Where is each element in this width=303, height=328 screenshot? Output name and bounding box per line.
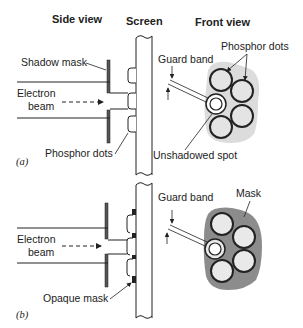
shadow-mask-b (105, 203, 108, 287)
label-phosphor-dots-front: Phosphor dots (221, 40, 289, 52)
screen-slab-a (136, 36, 152, 176)
crt-shadow-mask-diagram: Side view Screen Front view Shad (0, 0, 303, 328)
label-electron-line1-a: Electron (17, 87, 56, 99)
leader-phosphor-dots-side (115, 133, 128, 154)
label-electron-line2-b: beam (28, 246, 55, 258)
label-guard-band-b: Guard band (158, 191, 214, 203)
header-front-view: Front view (195, 16, 250, 28)
guard-band-b (167, 210, 207, 246)
header-screen: Screen (126, 15, 163, 27)
shadow-mask-a (107, 60, 110, 143)
front-view-a (205, 62, 260, 143)
label-guard-band-a: Guard band (158, 53, 214, 65)
phosphor-dots-side-a (128, 68, 136, 132)
label-mask: Mask (236, 187, 262, 199)
header-side-view: Side view (52, 13, 103, 25)
panel-b: Electron beam Opaque mask (b) Guard band… (16, 183, 262, 321)
screen-slab-b (136, 183, 152, 319)
front-view-b (204, 208, 262, 290)
leader-opaque-mask (110, 283, 131, 299)
leader-shadow-mask (86, 63, 106, 70)
phosphor-dots-side-b (127, 215, 133, 276)
part-label-a: (a) (16, 156, 29, 168)
part-label-b: (b) (16, 309, 29, 321)
label-phosphor-dots-side: Phosphor dots (45, 147, 113, 159)
opaque-mask-side-b (132, 209, 136, 283)
guard-band-a (168, 66, 208, 102)
label-electron-line2-a: beam (28, 100, 55, 112)
label-shadow-mask: Shadow mask (21, 56, 88, 68)
label-electron-line1-b: Electron (17, 233, 56, 245)
label-opaque-mask: Opaque mask (43, 292, 109, 304)
label-unshadowed-spot: Unshadowed spot (153, 149, 237, 161)
panel-a: Shadow mask Electron beam Phosphor dots … (16, 36, 289, 176)
